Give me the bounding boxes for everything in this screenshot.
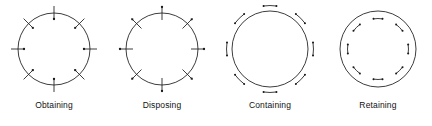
panel-obtaining: Obtaining [0,0,108,126]
panel-retaining: Retaining [324,0,432,126]
panel-label-retaining: Retaining [324,100,432,111]
panel-label-containing: Containing [216,100,324,111]
panel-disposing: Disposing [108,0,216,126]
panel-label-disposing: Disposing [108,100,216,111]
relation-diagram-figure: Obtaining Disposing Containing Retaining [0,0,432,126]
disposing-diagram [108,2,216,98]
panel-label-obtaining: Obtaining [0,100,108,111]
obtaining-diagram [0,2,108,98]
containing-diagram [216,2,324,98]
panel-containing: Containing [216,0,324,126]
retaining-diagram [324,2,432,98]
